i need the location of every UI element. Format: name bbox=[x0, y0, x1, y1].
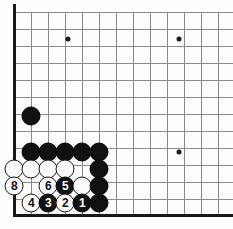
black-stone-a bbox=[22, 107, 41, 126]
stone-move-number: 6 bbox=[45, 180, 51, 192]
move-8-white: 8 bbox=[5, 177, 24, 196]
grid-line-vertical bbox=[133, 12, 134, 215]
go-board-diagram: 8654321 bbox=[0, 0, 233, 229]
star-point-upper-right bbox=[177, 37, 182, 42]
grid-line-vertical bbox=[184, 12, 185, 215]
grid-line-vertical bbox=[167, 12, 168, 215]
stone-move-number: 8 bbox=[11, 180, 17, 192]
star-point-right bbox=[177, 150, 182, 155]
grid-line-vertical bbox=[201, 12, 202, 215]
stone-move-number: 2 bbox=[62, 197, 68, 209]
grid-line-vertical bbox=[218, 12, 219, 215]
stone-move-number: 5 bbox=[62, 180, 68, 192]
stone-move-number: 3 bbox=[45, 197, 51, 209]
bottom-board-edge bbox=[13, 214, 233, 217]
grid-line-vertical bbox=[116, 12, 117, 215]
stone-move-number: 4 bbox=[28, 197, 34, 209]
black-stone-i bbox=[90, 194, 109, 213]
star-point-upper-left bbox=[66, 37, 71, 42]
grid-line-vertical bbox=[150, 12, 151, 215]
stone-move-number: 1 bbox=[79, 197, 85, 209]
